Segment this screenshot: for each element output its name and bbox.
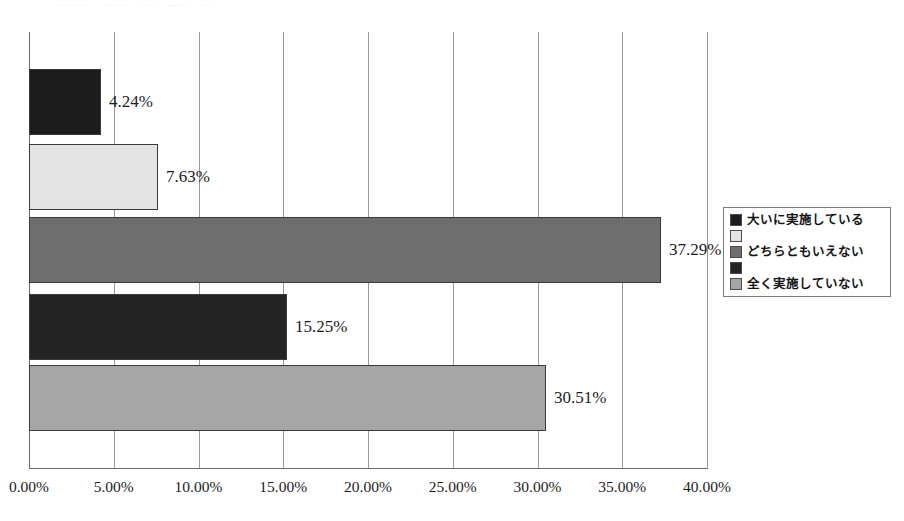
bar-1[interactable] [29, 69, 101, 135]
legend-swatch-icon-4 [730, 262, 742, 274]
x-tick-label-8: 40.00% [662, 478, 752, 496]
plot-area: 4.24%7.63%37.29%15.25%30.51% [29, 32, 707, 468]
legend-item-5[interactable]: 全く実施していない [730, 276, 885, 291]
bar-value-label-5: 30.51% [554, 389, 606, 406]
x-tick-label-0: 0.00% [0, 478, 74, 496]
bar-chart: 4.24%7.63%37.29%15.25%30.51% 0.00%5.00%1… [0, 0, 904, 521]
bar-value-label-4: 15.25% [295, 318, 347, 335]
bar-2[interactable] [29, 144, 158, 210]
legend-item-3[interactable]: どちらともいえない [730, 244, 885, 259]
bar-value-label-2: 7.63% [166, 168, 210, 185]
bar-row: 30.51% [29, 365, 707, 431]
bar-5[interactable] [29, 365, 546, 431]
legend-item-4[interactable] [730, 260, 885, 275]
legend-label-1: 大いに実施している [747, 213, 864, 226]
bar-value-label-1: 4.24% [109, 93, 153, 110]
x-tick-label-2: 10.00% [154, 478, 244, 496]
x-tick-label-1: 5.00% [69, 478, 159, 496]
x-tick-label-6: 30.00% [493, 478, 583, 496]
legend-swatch-icon-1 [730, 214, 742, 226]
legend-item-2[interactable] [730, 228, 885, 243]
bar-value-label-3: 37.29% [669, 241, 721, 258]
legend-swatch-icon-5 [730, 278, 742, 290]
bar-4[interactable] [29, 294, 287, 360]
legend-swatch-icon-3 [730, 246, 742, 258]
legend-label-5: 全く実施していない [747, 277, 864, 290]
bar-row: 4.24% [29, 69, 707, 135]
bar-row: 15.25% [29, 294, 707, 360]
x-tick-label-4: 20.00% [323, 478, 413, 496]
legend-swatch-icon-2 [730, 230, 742, 242]
legend-label-3: どちらともいえない [747, 245, 864, 258]
bar-row: 7.63% [29, 144, 707, 210]
bar-3[interactable] [29, 217, 661, 283]
chart-legend: 大いに実施しているどちらともいえない全く実施していない [723, 207, 891, 297]
x-tick-label-7: 35.00% [577, 478, 667, 496]
x-tick-label-3: 15.00% [238, 478, 328, 496]
x-axis-line [29, 468, 708, 469]
x-tick-label-5: 25.00% [408, 478, 498, 496]
bar-row: 37.29% [29, 217, 707, 283]
legend-item-1[interactable]: 大いに実施している [730, 212, 885, 227]
